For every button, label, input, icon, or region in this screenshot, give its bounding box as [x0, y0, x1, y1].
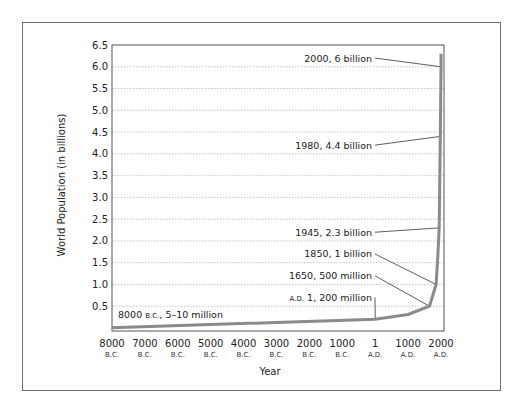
- annotation-leader: [375, 276, 429, 306]
- y-axis-title: World Population (in billions): [56, 114, 67, 257]
- x-tick-label: 7000: [132, 338, 157, 349]
- y-tick-label: 6.0: [92, 61, 108, 72]
- y-tick-label: 6.5: [92, 40, 108, 51]
- y-tick-label: 4.0: [92, 148, 108, 159]
- y-tick-label: 2.0: [92, 235, 108, 246]
- y-tick-label: 4.5: [92, 127, 108, 138]
- y-tick-label: 5.5: [92, 83, 108, 94]
- annotation-label: A.D. 1, 200 million: [290, 292, 372, 303]
- y-tick-label: 3.0: [92, 192, 108, 203]
- population-chart: 0.51.01.52.02.53.03.54.04.55.05.56.06.5 …: [0, 0, 520, 415]
- x-tick-label: 4000: [231, 338, 256, 349]
- y-axis-ticks: 0.51.01.52.02.53.03.54.04.55.05.56.06.5: [92, 40, 108, 312]
- annotation-leaders: [375, 58, 441, 319]
- x-tick-label: 2000: [428, 338, 453, 349]
- y-tick-label: 2.5: [92, 214, 108, 225]
- x-tick-label: 2000: [297, 338, 322, 349]
- annotations: 2000, 6 billion1980, 4.4 billion1945, 2.…: [118, 53, 372, 321]
- x-tick-era: B.C.: [138, 351, 152, 359]
- annotation-label: 8000 B.C., 5–10 million: [118, 309, 223, 320]
- annotation-leader: [375, 58, 441, 67]
- x-tick-label: 3000: [264, 338, 289, 349]
- annotation-leader: [375, 254, 436, 284]
- plot-area: [112, 45, 444, 331]
- x-tick-era: B.C.: [204, 351, 218, 359]
- annotation-leader: [375, 136, 440, 145]
- annotation-leader: [375, 228, 439, 232]
- annotation-label: 1945, 2.3 billion: [295, 227, 372, 238]
- x-tick-era: A.D.: [401, 351, 416, 359]
- x-tick-era: A.D.: [368, 351, 383, 359]
- annotation-label: 1980, 4.4 billion: [295, 140, 372, 151]
- annotation-label: 1850, 1 billion: [304, 248, 372, 259]
- y-tick-label: 5.0: [92, 105, 108, 116]
- x-tick-era: B.C.: [105, 351, 119, 359]
- x-tick-label: 6000: [165, 338, 190, 349]
- x-axis-ticks: 8000B.C.7000B.C.6000B.C.5000B.C.4000B.C.…: [99, 338, 453, 359]
- x-tick-era: B.C.: [269, 351, 283, 359]
- x-tick-era: A.D.: [434, 351, 449, 359]
- population-line: [112, 54, 441, 328]
- annotation-label: 1650, 500 million: [289, 270, 372, 281]
- y-tick-label: 0.5: [92, 301, 108, 312]
- x-tick-label: 1000: [395, 338, 420, 349]
- y-tick-label: 1.5: [92, 257, 108, 268]
- x-axis-title: Year: [258, 366, 281, 377]
- gridlines: [112, 67, 444, 306]
- x-tick-era: B.C.: [335, 351, 349, 359]
- annotation-label: 2000, 6 billion: [304, 53, 372, 64]
- x-tick-label: 8000: [99, 338, 124, 349]
- y-tick-label: 3.5: [92, 170, 108, 181]
- x-tick-era: B.C.: [171, 351, 185, 359]
- x-tick-era: B.C.: [237, 351, 251, 359]
- y-tick-label: 1.0: [92, 279, 108, 290]
- x-tick-label: 1: [372, 338, 378, 349]
- x-tick-label: 5000: [198, 338, 223, 349]
- x-tick-label: 1000: [330, 338, 355, 349]
- x-tick-era: B.C.: [302, 351, 316, 359]
